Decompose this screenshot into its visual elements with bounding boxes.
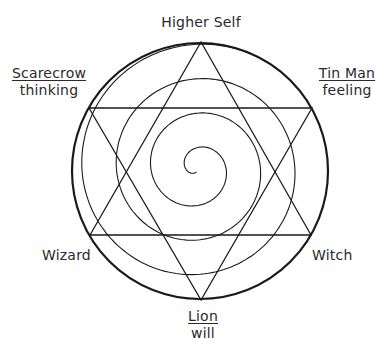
outer-circle	[72, 43, 328, 299]
spiral	[82, 44, 295, 274]
tin-man-subtitle: feeling	[319, 82, 375, 99]
label-scarecrow: Scarecrow thinking	[12, 65, 86, 99]
scarecrow-title: Scarecrow	[12, 65, 86, 82]
wizard-title: Wizard	[42, 247, 91, 263]
diagram-canvas	[0, 0, 388, 359]
scarecrow-subtitle: thinking	[12, 82, 86, 99]
witch-title: Witch	[312, 247, 352, 263]
upward-triangle	[90, 42, 311, 235]
lion-subtitle: will	[188, 325, 218, 342]
label-witch: Witch	[312, 247, 352, 264]
label-tin-man: Tin Man feeling	[319, 65, 375, 99]
higher-self-title: Higher Self	[161, 14, 241, 30]
label-higher-self: Higher Self	[161, 14, 241, 31]
lion-title: Lion	[188, 308, 218, 325]
label-wizard: Wizard	[42, 247, 91, 264]
label-lion: Lion will	[188, 308, 218, 342]
tin-man-title: Tin Man	[319, 65, 375, 82]
